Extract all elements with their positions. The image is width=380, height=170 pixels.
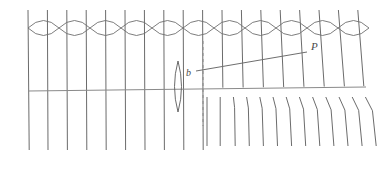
wavefront-arc-lower — [183, 28, 214, 36]
wavefront-arc-upper — [214, 21, 245, 29]
lower-right-bent-ray — [286, 97, 291, 146]
wavefront-arc-upper — [183, 21, 214, 29]
lower-right-bent-ray — [313, 97, 320, 146]
lower-right-bent-rays-group — [207, 97, 376, 146]
upper-vertical-ray — [261, 10, 264, 87]
wavefront-arc-lower — [59, 28, 90, 36]
wavefront-arc-lower — [152, 28, 183, 36]
upper-vertical-ray — [47, 10, 48, 150]
upper-vertical-ray — [300, 10, 304, 87]
upper-vertical-ray — [28, 10, 29, 150]
wavefront-arc-upper — [28, 21, 59, 29]
upper-vertical-rays-group — [28, 10, 364, 150]
label-point-p: P — [310, 40, 318, 52]
wavefront-arc-upper — [245, 21, 276, 29]
wavefront-arc-upper — [152, 21, 183, 29]
upper-vertical-ray — [106, 10, 107, 150]
upper-vertical-ray — [319, 10, 324, 87]
upper-vertical-ray — [183, 10, 184, 150]
lower-right-bent-ray — [273, 97, 278, 146]
upper-vertical-ray — [280, 10, 283, 87]
upper-vertical-ray — [164, 10, 165, 150]
lower-right-bent-ray — [247, 97, 250, 146]
upper-vertical-ray — [338, 10, 344, 86]
optical-axis-line — [28, 87, 366, 91]
diagram-canvas: P b — [0, 0, 380, 170]
wavefront-arc-lower — [214, 28, 245, 36]
lower-right-bent-ray — [260, 97, 264, 146]
caustic-right-arc — [178, 61, 182, 112]
lens-caustic-shape — [175, 61, 182, 112]
upper-vertical-ray — [241, 10, 243, 87]
upper-vertical-ray — [144, 10, 145, 150]
wavefront-arc-lower — [338, 28, 369, 36]
lower-right-bent-ray — [299, 97, 305, 146]
lower-right-bent-ray — [352, 97, 362, 146]
label-impact-parameter-b: b — [186, 67, 191, 78]
wavefront-arc-upper — [307, 21, 338, 29]
wavefront-arc-lower — [28, 28, 59, 36]
caustic-left-arc — [175, 61, 179, 112]
wavefront-lens-chain-group — [28, 21, 369, 36]
ray-to-point-p — [196, 52, 307, 71]
wavefront-arc-lower — [245, 28, 276, 36]
upper-vertical-ray — [67, 10, 68, 150]
lower-right-bent-ray — [326, 97, 334, 146]
wavefront-arc-lower — [307, 28, 338, 36]
lower-right-bent-ray — [339, 97, 348, 146]
wavefront-arc-lower — [121, 28, 152, 36]
lower-right-bent-ray — [233, 97, 235, 146]
wavefront-arc-upper — [121, 21, 152, 29]
physics-ray-diagram: P b — [0, 0, 380, 170]
wavefront-arc-upper — [338, 21, 369, 29]
wavefront-arc-upper — [59, 21, 90, 29]
lower-right-bent-ray — [365, 97, 376, 146]
